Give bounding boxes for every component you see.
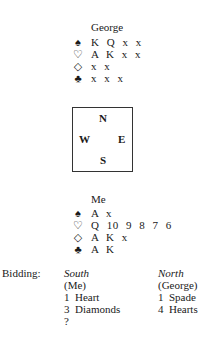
diamond-icon: ◇ (72, 60, 84, 72)
south-seat-label: South (64, 267, 120, 279)
south-spades-cards: A x (91, 207, 112, 219)
compass-north: N (99, 112, 107, 124)
south-clubs-cards: A K (91, 243, 115, 255)
bidding-south-column: South (Me) 1 Heart 3 Diamonds ? (64, 267, 120, 327)
diamond-icon: ◇ (72, 231, 84, 243)
bidding-north-column: North (George) 1 Spade 4 Hearts (158, 267, 198, 315)
north-seat-label: North (158, 267, 198, 279)
south-bid-2: 3 Diamonds (64, 303, 120, 315)
north-player-name: George (91, 21, 123, 33)
compass-west: W (79, 133, 90, 145)
north-spades-cards: K Q x x (91, 36, 142, 48)
club-icon: ♣ (72, 72, 84, 84)
bidding-label: Bidding: (2, 267, 41, 279)
north-bid-2: 4 Hearts (158, 303, 198, 315)
north-hearts-cards: A K x x (91, 48, 141, 60)
north-hand: George ♠ K Q x x ♡ A K x x ◇ x x ♣ x x x (72, 21, 212, 91)
south-bid-1: 1 Heart (64, 291, 120, 303)
compass-east: E (118, 133, 125, 145)
compass-south: S (100, 154, 106, 166)
compass-table-diagram: N W E S (72, 107, 133, 172)
heart-icon: ♡ (72, 48, 84, 60)
south-diamonds-cards: A K x (91, 231, 128, 243)
south-player-label: (Me) (64, 279, 120, 291)
heart-icon: ♡ (72, 219, 84, 231)
club-icon: ♣ (72, 243, 84, 255)
north-clubs-cards: x x x (91, 72, 124, 84)
spade-icon: ♠ (72, 36, 84, 48)
south-player-name: Me (91, 193, 106, 205)
south-bid-3: ? (64, 315, 120, 327)
south-hearts-cards: Q 10 9 8 7 6 (91, 219, 172, 231)
spade-icon: ♠ (72, 207, 84, 219)
north-diamonds-cards: x x (91, 60, 110, 72)
north-player-label: (George) (158, 279, 198, 291)
south-hand: Me ♠ A x ♡ Q 10 9 8 7 6 ◇ A K x ♣ A K (72, 193, 212, 263)
north-bid-1: 1 Spade (158, 291, 198, 303)
